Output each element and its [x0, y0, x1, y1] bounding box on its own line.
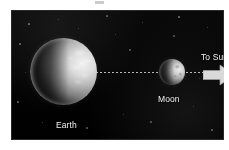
star [106, 15, 107, 16]
star [142, 22, 143, 23]
to-sun-label: To Sun [201, 52, 224, 62]
earth-label: Earth [56, 120, 77, 130]
moon-limb-highlight [159, 59, 185, 85]
star [211, 129, 212, 130]
dotted-line-earth-to-moon [96, 72, 158, 73]
star [25, 72, 26, 73]
scan-artifact [95, 1, 104, 4]
star [28, 23, 29, 24]
earth-limb-highlight [30, 38, 97, 105]
star [129, 49, 130, 50]
to-sun-arrow-icon [203, 64, 224, 86]
earth-sphere [30, 38, 97, 105]
page-background: Earth Moon To Sun [0, 0, 229, 150]
star [193, 106, 194, 107]
star [115, 34, 116, 35]
star [123, 114, 124, 115]
moon-sphere [159, 59, 185, 85]
star [19, 43, 20, 44]
star [199, 78, 200, 79]
dotted-line-moon-to-sun [186, 72, 204, 73]
space-panel: Earth Moon To Sun [11, 10, 224, 140]
star [17, 101, 18, 102]
star [178, 16, 179, 17]
star [78, 28, 79, 29]
star [207, 27, 208, 28]
moon-label: Moon [158, 94, 180, 104]
star [86, 127, 87, 128]
star [58, 19, 59, 20]
star [150, 121, 151, 122]
star [42, 122, 43, 123]
star [173, 35, 174, 36]
